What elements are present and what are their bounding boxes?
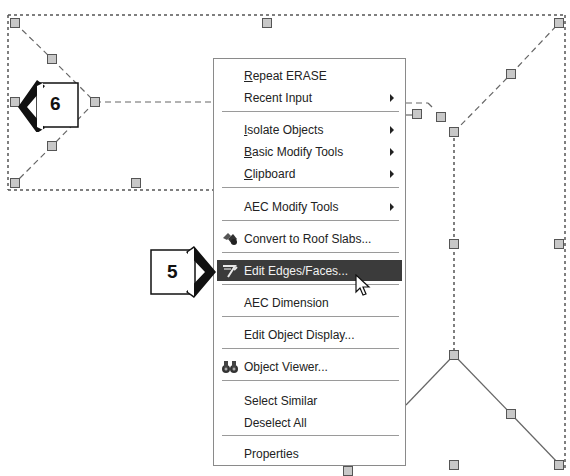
menu-item-label: Clipboard (244, 167, 295, 181)
menu-separator (222, 380, 399, 381)
callout-number: 6 (50, 93, 61, 115)
menu-item-properties[interactable]: Properties (217, 443, 402, 464)
grip-handle[interactable] (131, 178, 141, 188)
menu-separator (222, 348, 399, 349)
menu-item-convert-to-roof-slabs[interactable]: Convert to Roof Slabs... (217, 228, 402, 249)
menu-item-label: Convert to Roof Slabs... (244, 232, 371, 246)
grip-handle[interactable] (554, 18, 564, 28)
menu-item-basic-modify-tools[interactable]: Basic Modify Tools (217, 141, 402, 162)
menu-item-label: Edit Edges/Faces... (244, 264, 348, 278)
mouse-pointer-icon (355, 274, 371, 298)
menu-item-label: Object Viewer... (244, 360, 328, 374)
submenu-arrow-icon (390, 148, 394, 156)
grip-handle[interactable] (506, 69, 516, 79)
grip-handle[interactable] (554, 239, 564, 249)
menu-separator (222, 435, 399, 436)
grip-handle[interactable] (343, 466, 353, 476)
menu-item-recent-input[interactable]: Recent Input (217, 87, 402, 108)
menu-item-aec-modify-tools[interactable]: AEC Modify Tools (217, 196, 402, 217)
menu-item-repeat-erase[interactable]: Repeat ERASE (217, 65, 402, 86)
menu-item-label: AEC Modify Tools (244, 200, 338, 214)
callout-right-arrow-icon (150, 244, 216, 300)
grip-handle[interactable] (262, 18, 272, 28)
binoculars-icon (221, 358, 239, 375)
grip-handle[interactable] (449, 127, 459, 137)
menu-item-label: Edit Object Display... (244, 328, 354, 342)
edit-edges-icon (221, 262, 239, 279)
menu-item-label: Basic Modify Tools (244, 145, 343, 159)
menu-item-isolate-objects[interactable]: Isolate Objects (217, 119, 402, 140)
grip-handle[interactable] (436, 112, 446, 122)
menu-separator (222, 252, 399, 253)
grip-handle[interactable] (449, 239, 459, 249)
menu-item-label: Repeat ERASE (244, 69, 327, 83)
menu-separator (222, 220, 399, 221)
roof-slab-icon (221, 230, 239, 247)
menu-separator (222, 284, 399, 285)
menu-item-label: Recent Input (244, 91, 312, 105)
submenu-arrow-icon (390, 203, 394, 211)
grip-handle[interactable] (449, 350, 459, 360)
menu-item-clipboard[interactable]: Clipboard (217, 163, 402, 184)
callout-left-arrow-icon (15, 80, 80, 132)
callout-step-6: 6 (15, 80, 80, 132)
menu-item-select-similar[interactable]: Select Similar (217, 390, 402, 411)
menu-item-aec-dimension[interactable]: AEC Dimension (217, 292, 402, 313)
submenu-arrow-icon (390, 170, 394, 178)
callout-step-5: 5 (150, 244, 216, 300)
context-menu: Repeat ERASE Recent Input Isolate Object… (213, 58, 406, 466)
menu-separator (222, 111, 399, 112)
menu-separator (222, 316, 399, 317)
grip-handle[interactable] (47, 54, 57, 64)
menu-item-label: Properties (244, 447, 299, 461)
grip-handle[interactable] (47, 141, 57, 151)
grip-handle[interactable] (10, 178, 20, 188)
menu-item-label: Deselect All (244, 416, 307, 430)
submenu-arrow-icon (390, 94, 394, 102)
menu-item-label: Select Similar (244, 394, 317, 408)
menu-separator (222, 187, 399, 188)
grip-handle[interactable] (554, 460, 564, 470)
menu-item-deselect-all[interactable]: Deselect All (217, 412, 402, 433)
submenu-arrow-icon (390, 126, 394, 134)
menu-item-edit-object-display[interactable]: Edit Object Display... (217, 324, 402, 345)
menu-item-label: AEC Dimension (244, 296, 329, 310)
menu-item-edit-edges-faces[interactable]: Edit Edges/Faces... (217, 260, 402, 281)
grip-handle[interactable] (412, 109, 422, 119)
grip-handle[interactable] (90, 97, 100, 107)
menu-item-label: Isolate Objects (244, 123, 323, 137)
grip-handle[interactable] (506, 409, 516, 419)
menu-item-object-viewer[interactable]: Object Viewer... (217, 356, 402, 377)
grip-handle[interactable] (449, 460, 459, 470)
grip-handle[interactable] (10, 18, 20, 28)
callout-number: 5 (167, 261, 178, 283)
